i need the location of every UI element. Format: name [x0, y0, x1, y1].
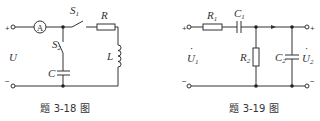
- plus-out-sign: +: [310, 24, 315, 33]
- terminal-plus: [11, 25, 15, 29]
- u2-label: U2: [302, 52, 314, 66]
- plus-in-sign: +: [182, 24, 187, 33]
- terminal-in-plus: [187, 25, 191, 29]
- junction-bottom-c2: [290, 84, 294, 88]
- u1-phasor-dot: ·: [190, 42, 193, 54]
- s2-label: S2: [52, 38, 62, 52]
- terminal-out-minus: [305, 84, 309, 88]
- terminal-minus: [11, 84, 15, 88]
- inductor-l: [118, 45, 121, 67]
- current-arrow-icon: [271, 25, 276, 29]
- u2-phasor-dot: ·: [305, 42, 308, 54]
- c-label: C: [48, 67, 56, 79]
- junction-top-c2: [290, 25, 294, 29]
- terminal-in-minus: [187, 84, 191, 88]
- plus-sign: +: [5, 24, 10, 33]
- figure-3-18: A + − S1 R L S2 C U 题 3-18 图: [5, 4, 121, 114]
- ammeter-label: A: [37, 23, 44, 33]
- resistor-r2: [253, 48, 259, 66]
- s1-label: S1: [70, 4, 79, 18]
- resistor-r: [97, 24, 115, 30]
- c2-label: C2: [275, 51, 286, 65]
- u1-label: U1: [187, 52, 198, 66]
- c1-label: C1: [234, 7, 245, 21]
- junction-bottom-r2: [254, 84, 258, 88]
- u-label: U: [9, 51, 18, 63]
- switch-s1-blade: [72, 21, 83, 27]
- minus-sign: −: [5, 77, 10, 86]
- junction-top-r2: [254, 25, 258, 29]
- terminal-out-plus: [305, 25, 309, 29]
- l-label: L: [106, 50, 113, 62]
- caption-3-19: 题 3-19 图: [229, 103, 278, 114]
- circuit-diagrams: A + − S1 R L S2 C U 题 3-18 图: [0, 0, 320, 121]
- r-label: R: [100, 9, 108, 21]
- minus-in-sign: −: [182, 77, 187, 86]
- junction-bottom: [61, 84, 65, 88]
- r1-label: R1: [206, 9, 217, 23]
- minus-out-sign: −: [310, 77, 315, 86]
- r2-label: R2: [239, 51, 251, 65]
- junction-top: [61, 25, 65, 29]
- figure-3-19: + − + − R1 C1 R2 C2 U1 · U2 · 题 3-19 图: [182, 7, 315, 114]
- caption-3-18: 题 3-18 图: [40, 103, 89, 114]
- resistor-r1: [203, 24, 222, 30]
